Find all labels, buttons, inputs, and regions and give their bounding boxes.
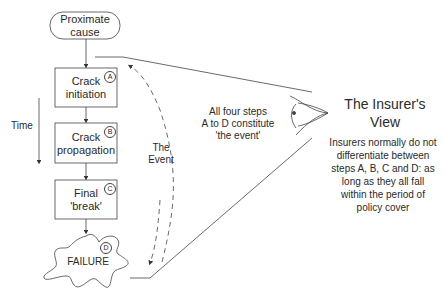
steps-note-line3: 'the event'	[193, 130, 283, 142]
proximate-cause-line2: cause	[50, 26, 120, 39]
proximate-cause-label: Proximate cause	[50, 13, 120, 39]
insurer-desc-line: policy cover	[322, 201, 444, 214]
time-label: Time	[10, 120, 34, 132]
steps-note-line1: All four steps	[193, 106, 283, 118]
event-arc-dashed-lower	[150, 200, 160, 263]
event-label: The Event	[143, 142, 179, 166]
step-a-badge: A	[104, 71, 116, 83]
step-b-line2: propagation	[55, 144, 117, 157]
insurer-desc-line: long as they all fall	[322, 175, 444, 188]
step-a-line2: initiation	[55, 88, 117, 101]
insurer-description: Insurers normally do not differentiate b…	[322, 136, 444, 214]
eye-icon	[290, 96, 328, 135]
insurer-desc-line: within the period of	[322, 188, 444, 201]
step-b-badge: B	[104, 126, 116, 138]
step-c-line2: 'break'	[55, 200, 117, 213]
sightline-top	[95, 57, 312, 92]
proximate-cause-line1: Proximate	[50, 13, 120, 26]
insurer-desc-line: differentiate between	[322, 149, 444, 162]
steps-note: All four steps A to D constitute 'the ev…	[193, 106, 283, 142]
insurer-title-line1: The Insurer's	[330, 96, 440, 114]
step-d-badge: D	[100, 242, 112, 254]
steps-note-line2: A to D constitute	[193, 118, 283, 130]
insurer-title: The Insurer's View	[330, 96, 440, 131]
insurer-title-line2: View	[330, 114, 440, 132]
step-c-badge: C	[104, 183, 116, 195]
failure-label: FAILURE	[58, 256, 118, 268]
insurer-desc-line: steps A, B, C and D: as	[322, 162, 444, 175]
insurer-desc-line: Insurers normally do not	[322, 136, 444, 149]
event-label-line2: Event	[143, 154, 179, 166]
event-label-line1: The	[143, 142, 179, 154]
